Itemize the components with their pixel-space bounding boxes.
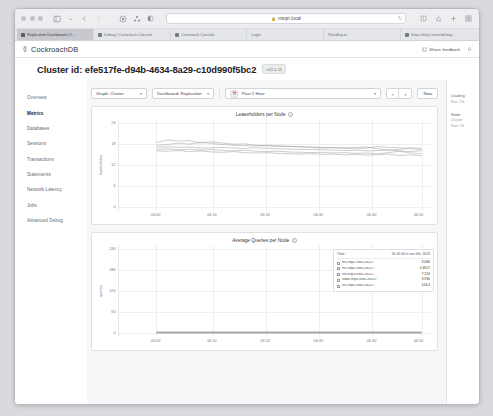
sidebar-item-transactions[interactable]: Transactions: [27, 152, 87, 167]
tooltip-time-label: Time:: [337, 253, 345, 257]
y-tick: 12: [111, 163, 115, 167]
sidebar-item-overview[interactable]: Overview: [27, 90, 87, 105]
rail-subtitle: Run: Ok: [451, 100, 476, 104]
tab-label: Rundhip.io: [328, 32, 347, 37]
cluster-title-bar: Cluster id: efe517fe-d94b-4634-8a29-c10d…: [15, 58, 479, 80]
chart-title-text: Leaseholders per Node: [236, 112, 286, 117]
toolbar-divider: [219, 89, 220, 98]
tab-label: Replication Dashboard | C...: [27, 32, 76, 37]
reload-icon[interactable]: ↻: [398, 16, 402, 21]
tooltip-series-value: 3.084: [422, 261, 431, 265]
chart-lines: [119, 119, 431, 211]
close-window-button[interactable]: [21, 16, 26, 21]
x-tick: 06:30: [314, 339, 324, 343]
sidebar-item-sessions[interactable]: Sessions: [27, 136, 87, 151]
share-feedback-button[interactable]: Share feedback: [422, 47, 460, 52]
rail-title: Node:: [451, 113, 476, 117]
address-bar[interactable]: 🔒 ntsqrt.local ↻: [166, 13, 406, 24]
time-next-button[interactable]: ›: [399, 88, 412, 99]
x-axis-ticks: 06:00 06:10 06:20 06:30 06:40 06:50: [118, 211, 431, 220]
x-tick: 06:10: [207, 213, 217, 217]
chart-title: Leaseholders per Node i: [98, 112, 431, 117]
main-content: Graph: Cluster ▾ Dashboard: Replication …: [87, 80, 446, 404]
dashboard-select[interactable]: Dashboard: Replication ▾: [152, 88, 214, 99]
tab-strip: Replication Dashboard | C... Debug | Coc…: [15, 29, 479, 41]
legend-swatch-icon: [337, 285, 340, 288]
share-feedback-label: Share feedback: [429, 47, 460, 52]
legend-swatch-icon: [337, 273, 340, 276]
sidebar-item-network-latency[interactable]: Network Latency: [27, 182, 87, 197]
chart-title-text: Average Queries per Node: [232, 238, 289, 243]
minimize-window-button[interactable]: [30, 16, 35, 21]
right-rail: Loading Run: Ok Node: Cluster Run: Ok: [446, 80, 479, 404]
bell-icon[interactable]: [467, 46, 472, 52]
x-tick: 06:00: [151, 339, 161, 343]
y-tick: 18: [111, 142, 115, 146]
chevron-down-icon: ▾: [207, 91, 209, 96]
graph-select[interactable]: Graph: Cluster ▾: [91, 88, 147, 99]
rail-subtitle: Run: Ok: [451, 124, 476, 128]
download-icon[interactable]: [434, 14, 443, 23]
legend-swatch-icon: [337, 267, 340, 270]
shield-icon[interactable]: [118, 14, 127, 23]
y-tick: 0: [113, 331, 115, 335]
x-tick: 06:20: [260, 339, 270, 343]
sidebar-icon[interactable]: [52, 14, 61, 23]
chart-plot-area: leaseholders 24 18 12 6 0: [98, 119, 431, 211]
x-tick: 06:10: [207, 339, 217, 343]
x-tick: 06:50: [414, 339, 424, 343]
info-icon[interactable]: i: [288, 112, 293, 117]
sidebar-item-jobs[interactable]: Jobs: [27, 198, 87, 213]
tooltip-series-name: nf1-http1-host-28257:: [342, 261, 420, 265]
url-text-group: 🔒 ntsqrt.local: [271, 16, 301, 21]
tooltip-time-value: 06 41:00 in nov 6th, 2023: [392, 253, 430, 257]
time-range-label: Past 1 Hour: [242, 91, 265, 96]
forward-icon[interactable]: [94, 14, 103, 23]
sidebar-item-metrics[interactable]: Metrics: [27, 105, 87, 120]
tooltip-series-row[interactable]: nf5-http5-host-28257: 103.4: [337, 283, 430, 289]
metrics-toolbar: Graph: Cluster ▾ Dashboard: Replication …: [91, 88, 438, 99]
browser-tab[interactable]: Replication Dashboard | C...: [17, 29, 94, 40]
now-button[interactable]: Now: [417, 88, 438, 99]
sidebar-item-statements[interactable]: Statements: [27, 167, 87, 182]
x-tick: 06:00: [151, 213, 161, 217]
extensions-icon[interactable]: [132, 14, 141, 23]
share-icon[interactable]: [419, 14, 428, 23]
info-icon[interactable]: i: [292, 238, 297, 243]
legend-swatch-icon: [337, 279, 340, 282]
x-tick: 06:20: [260, 213, 270, 217]
y-tick: 0: [113, 205, 115, 209]
plus-icon[interactable]: [449, 14, 458, 23]
maximize-window-button[interactable]: [38, 16, 43, 21]
y-tick: 6: [113, 184, 115, 188]
tooltip-series-value: 103.4: [422, 284, 431, 288]
browser-toolbar: 🔒 ntsqrt.local ↻: [15, 9, 479, 29]
chevron-down-icon[interactable]: [66, 14, 75, 23]
chevron-down-icon: ▾: [374, 91, 376, 96]
version-badge: v22.1.11: [262, 64, 286, 74]
dashboard-select-label: Dashboard: Replication: [157, 91, 202, 96]
sidebar-item-advanced-debug[interactable]: Advanced Debug: [27, 213, 87, 228]
y-tick: 240: [109, 247, 115, 251]
browser-window: 🔒 ntsqrt.local ↻ Replication Dashboard |…: [14, 8, 480, 405]
time-prev-button[interactable]: ‹: [386, 88, 399, 99]
back-icon[interactable]: [80, 14, 89, 23]
window-traffic-lights[interactable]: [21, 16, 43, 21]
x-tick: 06:40: [367, 213, 377, 217]
favicon-icon: [98, 33, 102, 37]
favicon-icon: [21, 33, 25, 37]
tabs-overview-icon[interactable]: [464, 14, 473, 23]
browser-tab[interactable]: https://nhjcl.insertdcloiq...: [401, 29, 477, 40]
sidebar-item-databases[interactable]: Databases: [27, 121, 87, 136]
browser-tab[interactable]: Cockroach Console: [171, 29, 248, 40]
browser-tab[interactable]: Login: [247, 29, 324, 40]
time-nav-buttons: ‹ ›: [386, 88, 412, 99]
brand[interactable]: CockroachDB: [22, 45, 78, 54]
tab-label: Login: [251, 32, 261, 37]
chart-canvas[interactable]: [118, 119, 431, 211]
tooltip-time-row: Time: 06 41:00 in nov 6th, 2023: [337, 253, 430, 259]
reader-icon[interactable]: [146, 14, 155, 23]
time-range-picker[interactable]: 📅 Past 1 Hour ▾: [225, 88, 381, 99]
browser-tab[interactable]: Debug | Cockroach Console: [94, 29, 171, 40]
browser-tab[interactable]: Rundhip.io: [324, 29, 401, 40]
